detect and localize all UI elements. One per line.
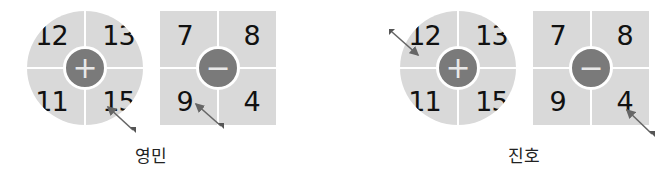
dart-icon	[627, 110, 655, 137]
dart-icon	[108, 107, 136, 133]
darts-layer	[0, 0, 672, 176]
dart-icon	[196, 104, 224, 129]
dart-icon	[389, 29, 418, 55]
